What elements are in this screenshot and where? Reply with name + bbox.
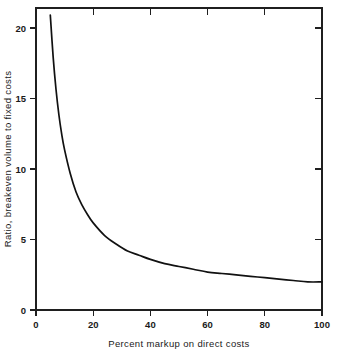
x-tick-label: 20 bbox=[88, 319, 99, 330]
x-tick-label: 0 bbox=[33, 319, 38, 330]
x-tick-label: 60 bbox=[202, 319, 213, 330]
y-tick-label: 15 bbox=[15, 93, 26, 104]
y-tick-label: 10 bbox=[15, 164, 26, 175]
y-tick-label: 20 bbox=[15, 23, 26, 34]
y-axis-title: Ratio, breakeven volume to fixed costs bbox=[2, 71, 13, 247]
x-tick-label: 100 bbox=[314, 319, 330, 330]
chart-background bbox=[0, 0, 337, 357]
breakeven-ratio-chart: 0 20 40 60 80 100 0 5 10 15 20 Percent m… bbox=[0, 0, 337, 357]
x-tick-label: 40 bbox=[145, 319, 156, 330]
x-axis-title: Percent markup on direct costs bbox=[108, 338, 249, 349]
x-tick-label: 80 bbox=[260, 319, 271, 330]
y-tick-label: 5 bbox=[21, 234, 27, 245]
y-tick-label: 0 bbox=[21, 305, 26, 316]
